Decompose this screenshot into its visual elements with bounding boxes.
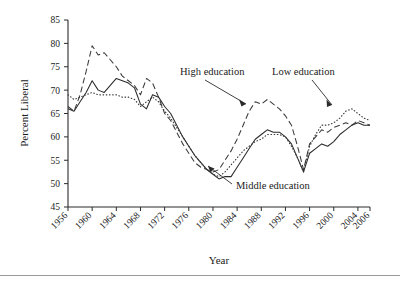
x-tick-label: 1992 — [266, 210, 287, 231]
y-axis-tick-labels: 455055606570758085 — [51, 15, 61, 212]
series-line-high-education — [68, 46, 370, 172]
annotation-middle-education: Middle education — [236, 180, 311, 191]
y-tick-label: 50 — [51, 179, 61, 189]
x-tick-label: 1996 — [291, 210, 312, 231]
x-tick-label: 2000 — [315, 210, 336, 231]
x-tick-label: 1956 — [49, 210, 70, 231]
x-axis-title: Year — [209, 254, 230, 266]
y-axis-ticks — [64, 20, 68, 207]
x-tick-label: 1972 — [146, 210, 167, 231]
y-tick-label: 75 — [51, 62, 61, 72]
y-tick-label: 55 — [51, 156, 61, 166]
leader-line-low-education — [312, 80, 332, 105]
figure-container: 455055606570758085 195619601964196819721… — [0, 0, 400, 281]
annotation-high-education: High education — [180, 66, 245, 77]
x-tick-label: 1964 — [97, 210, 118, 231]
series-line-low-education — [68, 92, 370, 176]
line-chart: 455055606570758085 195619601964196819721… — [0, 0, 400, 281]
y-axis-title: Percent Liberal — [18, 79, 30, 147]
x-tick-label: 1984 — [218, 210, 239, 231]
x-tick-label: 1976 — [170, 210, 191, 231]
x-axis-tick-labels: 1956196019641968197219761980198419881992… — [49, 210, 372, 231]
x-tick-label: 1988 — [242, 210, 263, 231]
series-line-middle-education — [68, 78, 370, 179]
y-tick-label: 80 — [51, 39, 61, 49]
y-tick-label: 70 — [51, 86, 61, 96]
y-tick-label: 60 — [51, 132, 61, 142]
y-tick-label: 45 — [51, 202, 61, 212]
y-tick-label: 85 — [51, 15, 61, 25]
x-axis-ticks — [68, 207, 370, 211]
x-tick-label: 1968 — [121, 210, 142, 231]
annotation-low-education: Low education — [272, 66, 335, 77]
y-tick-label: 65 — [51, 109, 61, 119]
x-tick-label: 1960 — [73, 210, 94, 231]
x-tick-label: 1980 — [194, 210, 215, 231]
